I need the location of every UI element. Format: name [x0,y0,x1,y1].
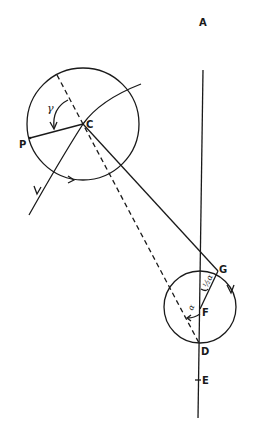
label-a: A [199,17,207,28]
label-gamma: γ [47,102,54,115]
label-p: P [19,139,26,150]
diagram-canvas: A C P G F D E γ ½α α [0,0,259,439]
vertical-axis [198,70,203,418]
label-f: F [202,307,209,318]
label-half-alpha: ½α [201,273,215,289]
label-g: G [219,264,227,275]
label-c: C [86,119,93,130]
orbit-curve [29,84,141,215]
orbit-arrow-icon [34,186,41,194]
circle-arrow-icon [68,176,74,183]
dashed-line-cd [57,75,199,343]
line-cg [83,124,218,271]
label-alpha: α [186,303,197,312]
half-alpha-arc [201,289,208,291]
point-p [29,137,32,140]
label-d: D [201,346,209,357]
label-e: E [202,375,209,386]
